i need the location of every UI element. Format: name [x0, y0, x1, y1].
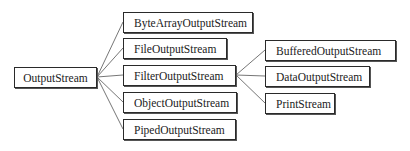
- node-label: ByteArrayOutputStream: [134, 17, 247, 29]
- node-label: OutputStream: [23, 72, 88, 84]
- node-fileoutputstream: FileOutputStream: [123, 38, 227, 59]
- node-label: FilterOutputStream: [134, 70, 223, 82]
- edge-outputstream-filter: [97, 75, 123, 77]
- node-bytearrayoutputstream: ByteArrayOutputStream: [123, 12, 253, 33]
- node-bufferedoutputstream: BufferedOutputStream: [265, 40, 396, 61]
- node-filteroutputstream: FilterOutputStream: [123, 65, 236, 86]
- node-label: BufferedOutputStream: [276, 45, 381, 57]
- edge-filter-print: [236, 75, 265, 103]
- node-label: PrintStream: [276, 98, 331, 110]
- node-label: DataOutputStream: [276, 71, 362, 83]
- node-outputstream: OutputStream: [14, 67, 97, 88]
- node-label: PipedOutputStream: [134, 124, 225, 136]
- node-objectoutputstream: ObjectOutputStream: [123, 92, 237, 113]
- edge-outputstream-bytearray: [97, 22, 123, 77]
- node-label: FileOutputStream: [134, 43, 216, 55]
- edge-filter-data: [236, 75, 265, 76]
- edge-filter-buffered: [236, 50, 265, 75]
- node-printstream: PrintStream: [265, 93, 335, 114]
- node-dataoutputstream: DataOutputStream: [265, 66, 370, 87]
- edge-outputstream-object: [97, 77, 123, 102]
- node-pipedoutputstream: PipedOutputStream: [123, 119, 236, 140]
- class-hierarchy-diagram: OutputStream ByteArrayOutputStream FileO…: [0, 0, 410, 151]
- node-label: ObjectOutputStream: [134, 97, 229, 109]
- edge-outputstream-file: [97, 48, 123, 77]
- edge-outputstream-piped: [97, 77, 123, 129]
